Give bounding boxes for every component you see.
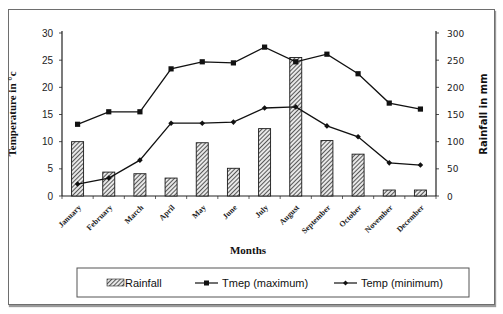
legend-rainfall-label: Rainfall xyxy=(125,277,162,289)
y-tick-left: 10 xyxy=(42,136,54,147)
legend-tmax-label: Tmep (maximum) xyxy=(222,277,308,289)
rainfall-bar xyxy=(321,141,333,196)
tmax-marker xyxy=(106,109,111,114)
rainfall-bar xyxy=(414,190,426,196)
x-tick-label: March xyxy=(123,203,146,226)
tmax-marker xyxy=(75,122,80,127)
rainfall-bar xyxy=(196,143,208,196)
y-tick-left: 15 xyxy=(42,109,54,120)
tmax-marker xyxy=(387,100,392,105)
y-tick-right: 250 xyxy=(447,56,464,66)
y-tick-right: 50 xyxy=(447,164,459,174)
x-tick-label: August xyxy=(278,203,302,227)
x-tick-label: June xyxy=(221,203,239,221)
x-axis-label: Months xyxy=(230,244,267,256)
legend-tmin-label: Temp (minimum) xyxy=(361,277,443,289)
rainfall-bar xyxy=(259,129,271,196)
tmax-marker xyxy=(418,106,423,111)
rainfall-bar xyxy=(383,190,395,196)
x-tick-label: February xyxy=(85,203,114,232)
x-tick-label: November xyxy=(363,203,395,235)
y-tick-left: 20 xyxy=(42,82,54,93)
legend-tmax-marker-icon xyxy=(204,281,209,286)
legend: Rainfall Tmep (maximum) Temp (minimum) xyxy=(77,268,469,297)
x-tick-label: January xyxy=(57,203,83,229)
tmin-marker xyxy=(231,119,237,125)
axes: 051015202530050100150200250300JanuaryFeb… xyxy=(42,28,465,236)
x-tick-label: April xyxy=(157,203,177,223)
tmax-marker xyxy=(168,66,173,71)
y-tick-right: 100 xyxy=(447,137,464,147)
y-tick-left: 25 xyxy=(42,55,54,66)
tmax-marker xyxy=(355,71,360,76)
y-tick-right: 150 xyxy=(447,110,464,120)
tmax-marker xyxy=(324,52,329,57)
x-tick-label: October xyxy=(337,203,363,229)
y-tick-right: 300 xyxy=(447,29,464,39)
x-tick-label: September xyxy=(300,203,333,236)
x-tick-label: July xyxy=(253,203,270,220)
x-tick-label: May xyxy=(190,203,207,220)
rainfall-bar xyxy=(165,178,177,196)
y-tick-left: 5 xyxy=(47,163,53,174)
temperature-lines xyxy=(75,45,423,187)
y-tick-left: 30 xyxy=(42,28,54,39)
tmin-line xyxy=(78,107,421,184)
tmax-line xyxy=(78,47,421,124)
rainfall-bar xyxy=(352,154,364,196)
legend-rainfall-swatch xyxy=(107,279,124,286)
tmax-marker xyxy=(293,59,298,64)
rainfall-bar xyxy=(290,57,302,196)
rainfall-bar xyxy=(227,168,239,196)
rainfall-bars xyxy=(72,57,427,196)
tmax-marker xyxy=(200,59,205,64)
tmax-marker xyxy=(231,60,236,65)
y-tick-right: 200 xyxy=(447,83,464,93)
rainfall-bar xyxy=(72,142,84,196)
y-axis-left-label: Temperature in °c xyxy=(6,71,18,156)
tmax-marker xyxy=(137,109,142,114)
tmin-marker xyxy=(199,120,205,126)
x-tick-label: December xyxy=(395,203,426,234)
tmin-marker xyxy=(418,162,424,168)
combo-chart: 051015202530050100150200250300JanuaryFeb… xyxy=(0,0,503,314)
tmax-marker xyxy=(262,45,267,50)
tmin-marker xyxy=(262,105,268,111)
rainfall-bar xyxy=(134,174,146,196)
y-axis-right-label: Rainfall in mm xyxy=(478,73,489,154)
y-tick-left: 0 xyxy=(47,191,53,202)
tmin-marker xyxy=(324,123,330,129)
y-tick-right: 0 xyxy=(447,192,453,202)
